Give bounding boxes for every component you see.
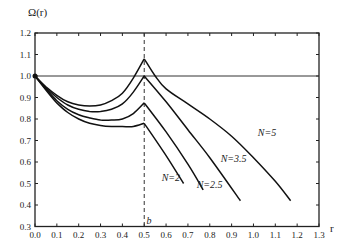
x-tick-label: 0.3 (95, 230, 107, 240)
series-label: N=2 (161, 172, 180, 183)
x-tick-label: 1.0 (248, 230, 260, 240)
y-axis-title: Ω(r) (28, 6, 48, 19)
x-tick-label: 0.1 (51, 230, 62, 240)
x-tick-label: 0.6 (160, 230, 172, 240)
y-tick-label: 0.5 (20, 179, 32, 189)
reference-lines (35, 33, 319, 227)
x-tick-label: 0.0 (29, 230, 41, 240)
x-tick-label: 0.8 (204, 230, 216, 240)
y-tick-label: 1.0 (20, 71, 32, 81)
series-label: b (146, 215, 151, 226)
annotations: N=5N=3.5N=2.5N=2b (146, 127, 276, 226)
axis-ticks: 0.00.10.20.30.40.50.60.70.80.91.01.11.21… (20, 28, 325, 240)
series-label: N=2.5 (196, 179, 223, 190)
x-tick-label: 0.7 (182, 230, 194, 240)
series-line-N-2 (35, 76, 184, 184)
y-tick-label: 0.7 (20, 136, 32, 146)
plot-frame (35, 33, 319, 227)
y-tick-label: 0.9 (20, 93, 32, 103)
plot-border (35, 33, 319, 227)
y-tick-label: 1.1 (20, 50, 31, 60)
y-tick-label: 0.4 (20, 200, 32, 210)
y-tick-label: 0.8 (20, 114, 32, 124)
line-chart: 0.00.10.20.30.40.50.60.70.80.91.01.11.21… (0, 0, 352, 251)
series-label: N=5 (257, 127, 276, 138)
x-tick-label: 0.2 (73, 230, 84, 240)
x-tick-label: 0.5 (139, 230, 151, 240)
y-tick-label: 0.3 (20, 222, 32, 232)
x-tick-label: 0.4 (117, 230, 129, 240)
x-tick-label: 1.2 (292, 230, 303, 240)
y-tick-label: 0.6 (20, 157, 32, 167)
series-label: N=3.5 (220, 153, 247, 164)
x-tick-label: 1.3 (313, 230, 325, 240)
start-point-marker (33, 74, 38, 79)
x-tick-label: 0.9 (226, 230, 238, 240)
x-tick-label: 1.1 (270, 230, 281, 240)
y-tick-label: 1.2 (20, 28, 31, 38)
x-axis-title: r (330, 222, 334, 234)
